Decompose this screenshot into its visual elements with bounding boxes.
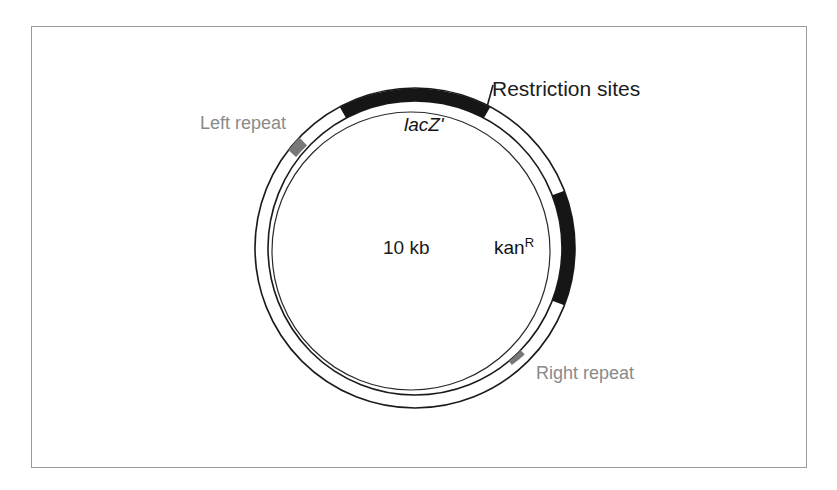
kanr-gene-label: kanR bbox=[494, 236, 534, 257]
right-repeat-label: Right repeat bbox=[536, 364, 634, 382]
lacz-gene-label: lacZ' bbox=[404, 115, 444, 134]
left-repeat-label: Left repeat bbox=[200, 114, 286, 132]
restriction-sites-label: Restriction sites bbox=[492, 78, 640, 99]
figure-page: Restriction sites Left repeat Right repe… bbox=[0, 0, 837, 490]
kanr-base-text: kan bbox=[494, 237, 525, 258]
plasmid-size-label: 10 kb bbox=[383, 238, 429, 257]
kanr-superscript: R bbox=[525, 235, 534, 250]
